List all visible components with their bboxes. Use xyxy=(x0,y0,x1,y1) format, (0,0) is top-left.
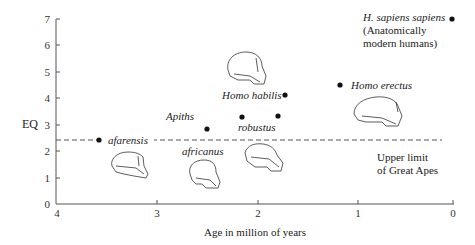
skull-robustus-icon xyxy=(245,144,283,171)
skull-homo-habilis-icon xyxy=(228,52,266,84)
y-tick-1: 1 xyxy=(45,172,51,184)
label-homo-erectus: Homo erectus xyxy=(350,79,412,91)
y-axis-label: EQ xyxy=(22,117,38,131)
skull-homo-erectus-icon xyxy=(354,97,402,126)
label-great-apes-1: Upper limit xyxy=(377,151,428,163)
y-tick-3: 3 xyxy=(45,119,51,131)
eq-chart: 7 6 5 4 3 2 1 0 4 3 2 1 0 EQ Age in mill… xyxy=(0,0,475,245)
point-apiths xyxy=(204,126,209,131)
x-tick-2: 2 xyxy=(255,207,261,219)
x-tick-3: 3 xyxy=(154,207,160,219)
y-tick-0: 0 xyxy=(45,198,51,210)
point-robustus-2 xyxy=(275,113,280,118)
label-africanus: africanus xyxy=(182,145,224,157)
point-h-sapiens xyxy=(449,16,454,21)
y-tick-5: 5 xyxy=(45,66,51,78)
label-h-sapiens: H. sapiens sapiens xyxy=(362,11,445,23)
x-tick-0: 0 xyxy=(450,207,456,219)
label-h-sapiens-sub2: modern humans) xyxy=(363,37,438,50)
y-tick-7: 7 xyxy=(45,13,51,25)
label-great-apes-2: of Great Apes xyxy=(377,164,438,176)
y-tick-2: 2 xyxy=(45,145,51,157)
label-robustus: robustus xyxy=(238,121,276,133)
x-tick-4: 4 xyxy=(54,207,60,219)
skull-afarensis-icon xyxy=(112,152,148,178)
point-homo-erectus xyxy=(337,82,342,87)
label-apiths: Apiths xyxy=(165,110,194,122)
skull-africanus-icon xyxy=(190,160,220,188)
x-tick-1: 1 xyxy=(355,207,361,219)
x-axis-label: Age in million of years xyxy=(204,226,306,238)
label-h-sapiens-sub1: (Anatomically xyxy=(363,24,427,37)
point-afarensis xyxy=(96,137,101,142)
y-ticks: 7 6 5 4 3 2 1 0 xyxy=(45,13,61,210)
y-tick-6: 6 xyxy=(45,39,51,51)
x-ticks: 4 3 2 1 0 xyxy=(54,200,456,219)
point-robustus-1 xyxy=(239,114,244,119)
label-afarensis: afarensis xyxy=(108,134,148,146)
label-homo-habilis: Homo habilis xyxy=(221,89,282,101)
y-tick-4: 4 xyxy=(45,92,51,104)
point-homo-habilis xyxy=(282,92,287,97)
